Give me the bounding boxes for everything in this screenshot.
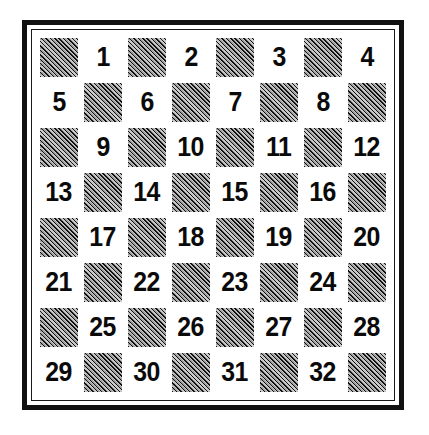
board-square-20[interactable]: 20 <box>345 215 389 260</box>
board-square-dark-r8c6[interactable] <box>257 350 301 395</box>
board-square-27[interactable]: 27 <box>257 305 301 350</box>
square-number-label: 19 <box>266 224 293 251</box>
square-number-label: 7 <box>228 89 241 116</box>
board-square-dark-r4c4[interactable] <box>169 170 213 215</box>
board-square-dark-r4c2[interactable] <box>81 170 125 215</box>
square-number-label: 21 <box>46 269 73 296</box>
board-square-dark-r5c1[interactable] <box>37 215 81 260</box>
square-number-label: 2 <box>184 44 197 71</box>
square-number-label: 30 <box>134 359 161 386</box>
square-number-label: 8 <box>316 89 329 116</box>
board-square-3[interactable]: 3 <box>257 35 301 80</box>
board-square-dark-r2c2[interactable] <box>81 80 125 125</box>
board-square-12[interactable]: 12 <box>345 125 389 170</box>
board-square-17[interactable]: 17 <box>81 215 125 260</box>
board-square-8[interactable]: 8 <box>301 80 345 125</box>
square-number-label: 15 <box>222 179 249 206</box>
square-number-label: 13 <box>46 179 73 206</box>
board-square-31[interactable]: 31 <box>213 350 257 395</box>
board-square-dark-r2c6[interactable] <box>257 80 301 125</box>
board-square-dark-r6c6[interactable] <box>257 260 301 305</box>
board-square-dark-r1c1[interactable] <box>37 35 81 80</box>
square-number-label: 12 <box>354 134 381 161</box>
square-number-label: 26 <box>178 314 205 341</box>
board-square-dark-r1c7[interactable] <box>301 35 345 80</box>
square-number-label: 17 <box>90 224 117 251</box>
board-square-dark-r7c7[interactable] <box>301 305 345 350</box>
board-square-25[interactable]: 25 <box>81 305 125 350</box>
board-square-6[interactable]: 6 <box>125 80 169 125</box>
board-square-32[interactable]: 32 <box>301 350 345 395</box>
board-square-dark-r4c6[interactable] <box>257 170 301 215</box>
board-square-dark-r6c8[interactable] <box>345 260 389 305</box>
square-number-label: 24 <box>310 269 337 296</box>
board-square-22[interactable]: 22 <box>125 260 169 305</box>
board-square-dark-r3c1[interactable] <box>37 125 81 170</box>
board-square-dark-r3c3[interactable] <box>125 125 169 170</box>
square-number-label: 32 <box>310 359 337 386</box>
board-square-dark-r3c7[interactable] <box>301 125 345 170</box>
board-square-dark-r2c4[interactable] <box>169 80 213 125</box>
board-inner-rule: 1234567891011121314151617181920212223242… <box>31 29 395 401</box>
square-number-label: 4 <box>360 44 373 71</box>
board-square-dark-r5c7[interactable] <box>301 215 345 260</box>
board-square-dark-r4c8[interactable] <box>345 170 389 215</box>
draughts-board-grid: 1234567891011121314151617181920212223242… <box>37 35 389 395</box>
square-number-label: 31 <box>222 359 249 386</box>
square-number-label: 18 <box>178 224 205 251</box>
board-square-dark-r7c3[interactable] <box>125 305 169 350</box>
board-square-dark-r8c8[interactable] <box>345 350 389 395</box>
board-square-24[interactable]: 24 <box>301 260 345 305</box>
board-square-1[interactable]: 1 <box>81 35 125 80</box>
board-square-16[interactable]: 16 <box>301 170 345 215</box>
board-square-dark-r7c5[interactable] <box>213 305 257 350</box>
square-number-label: 3 <box>272 44 285 71</box>
board-square-29[interactable]: 29 <box>37 350 81 395</box>
board-square-15[interactable]: 15 <box>213 170 257 215</box>
board-square-14[interactable]: 14 <box>125 170 169 215</box>
square-number-label: 16 <box>310 179 337 206</box>
board-square-11[interactable]: 11 <box>257 125 301 170</box>
square-number-label: 1 <box>96 44 109 71</box>
board-square-dark-r6c2[interactable] <box>81 260 125 305</box>
board-square-dark-r1c3[interactable] <box>125 35 169 80</box>
board-square-5[interactable]: 5 <box>37 80 81 125</box>
square-number-label: 25 <box>90 314 117 341</box>
board-square-13[interactable]: 13 <box>37 170 81 215</box>
square-number-label: 27 <box>266 314 293 341</box>
board-square-10[interactable]: 10 <box>169 125 213 170</box>
square-number-label: 9 <box>96 134 109 161</box>
board-outer-frame: 1234567891011121314151617181920212223242… <box>22 20 404 410</box>
board-square-7[interactable]: 7 <box>213 80 257 125</box>
board-square-4[interactable]: 4 <box>345 35 389 80</box>
board-square-dark-r8c2[interactable] <box>81 350 125 395</box>
board-square-dark-r1c5[interactable] <box>213 35 257 80</box>
board-square-dark-r6c4[interactable] <box>169 260 213 305</box>
board-square-dark-r8c4[interactable] <box>169 350 213 395</box>
square-number-label: 6 <box>140 89 153 116</box>
board-square-18[interactable]: 18 <box>169 215 213 260</box>
board-square-dark-r3c5[interactable] <box>213 125 257 170</box>
square-number-label: 20 <box>354 224 381 251</box>
board-square-23[interactable]: 23 <box>213 260 257 305</box>
square-number-label: 29 <box>46 359 73 386</box>
board-square-2[interactable]: 2 <box>169 35 213 80</box>
square-number-label: 14 <box>134 179 161 206</box>
square-number-label: 28 <box>354 314 381 341</box>
board-square-28[interactable]: 28 <box>345 305 389 350</box>
square-number-label: 5 <box>52 89 65 116</box>
square-number-label: 10 <box>178 134 205 161</box>
board-square-dark-r7c1[interactable] <box>37 305 81 350</box>
board-square-30[interactable]: 30 <box>125 350 169 395</box>
board-square-dark-r5c3[interactable] <box>125 215 169 260</box>
square-number-label: 23 <box>222 269 249 296</box>
square-number-label: 22 <box>134 269 161 296</box>
board-square-19[interactable]: 19 <box>257 215 301 260</box>
board-square-9[interactable]: 9 <box>81 125 125 170</box>
board-square-dark-r2c8[interactable] <box>345 80 389 125</box>
square-number-label: 11 <box>266 134 291 161</box>
board-square-dark-r5c5[interactable] <box>213 215 257 260</box>
board-square-21[interactable]: 21 <box>37 260 81 305</box>
board-square-26[interactable]: 26 <box>169 305 213 350</box>
